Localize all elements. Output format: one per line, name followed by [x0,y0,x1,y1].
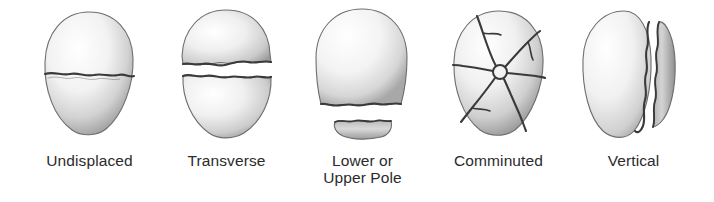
fracture-panel-transverse: Transverse [155,0,298,202]
fracture-panel-vertical: Vertical [562,0,705,202]
patella-transverse-icon [155,0,298,148]
patella-comminuted-icon [427,0,570,148]
fracture-label-vertical: Vertical [562,152,705,169]
patella-pole-icon [291,0,434,148]
fracture-panel-undisplaced: Undisplaced [18,0,161,202]
fracture-label-pole: Lower or Upper Pole [291,152,434,186]
patella-vertical-icon [562,0,705,148]
fracture-label-undisplaced: Undisplaced [18,152,161,169]
fracture-label-comminuted: Comminuted [427,152,570,169]
fracture-panel-pole: Lower or Upper Pole [291,0,434,202]
patella-fracture-figure: Undisplaced [0,0,714,202]
fracture-label-transverse: Transverse [155,152,298,169]
patella-undisplaced-icon [18,0,161,148]
fracture-panel-comminuted: Comminuted [427,0,570,202]
